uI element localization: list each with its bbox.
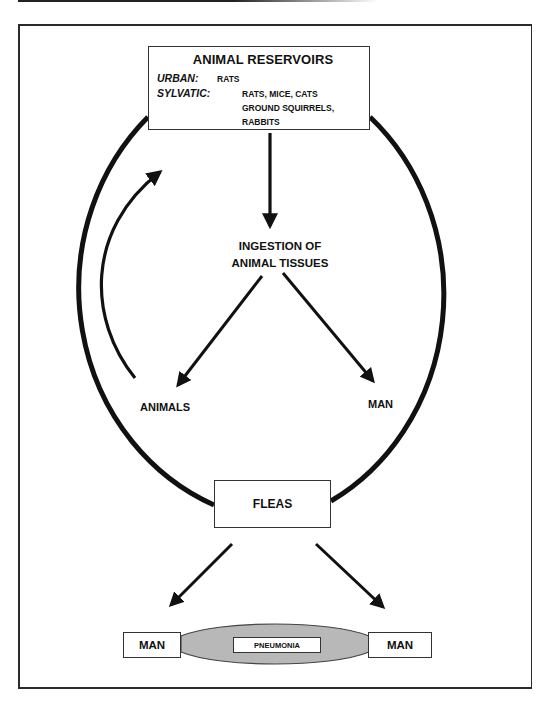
arrow-ingestion-to-man: [283, 273, 373, 381]
arrow-fleas-to-man-right: [316, 544, 383, 607]
pneumonia-box: PNEUMONIA: [233, 637, 321, 653]
return-arrow: [101, 172, 160, 378]
sylvatic-value-3: RABBITS: [242, 115, 369, 129]
reservoirs-title: ANIMAL RESERVOIRS: [157, 52, 369, 67]
animal-reservoirs-box: ANIMAL RESERVOIRS URBAN: RATS SYLVATIC: …: [148, 46, 370, 130]
sylvatic-value-1: RATS, MICE, CATS: [242, 87, 318, 101]
urban-value: RATS: [217, 72, 240, 86]
ingestion-label: INGESTION OF ANIMAL TISSUES: [200, 238, 360, 272]
sylvatic-row: SYLVATIC: RATS, MICE, CATS: [157, 86, 369, 101]
fleas-box: FLEAS: [214, 480, 331, 528]
man-right-box: MAN: [368, 632, 432, 658]
man-left-box: MAN: [123, 632, 181, 658]
arrow-ingestion-to-animals: [178, 276, 262, 385]
cycle-arc-right: [331, 117, 444, 501]
sylvatic-value-2: GROUND SQUIRRELS,: [242, 101, 369, 115]
cycle-arc-left: [79, 117, 214, 505]
ingestion-line-2: ANIMAL TISSUES: [200, 255, 360, 272]
urban-label: URBAN:: [157, 71, 217, 85]
man-label: MAN: [368, 398, 393, 410]
animals-label: ANIMALS: [140, 401, 190, 413]
urban-row: URBAN: RATS: [157, 71, 369, 86]
arrow-fleas-to-man-left: [171, 544, 232, 605]
sylvatic-label: SYLVATIC:: [157, 86, 242, 100]
ingestion-line-1: INGESTION OF: [200, 238, 360, 255]
